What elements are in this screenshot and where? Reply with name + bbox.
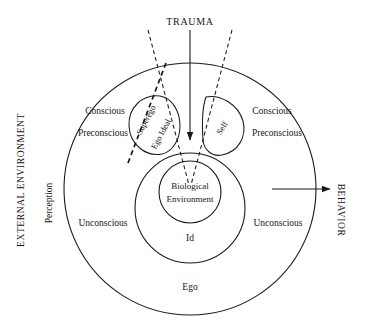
unconscious-right-label: Unconscious [253,219,302,229]
biological-environment-circle-outline [159,161,221,223]
conscious-left-label: Conscious [85,107,125,117]
id-label: Id [186,234,194,244]
diagram-canvas: TRAUMA BEHAVIOR EXTERNAL ENVIRONMENT Per… [0,0,365,335]
biological-label: Biological [171,182,209,191]
preconscious-left-label: Preconscious [78,129,128,139]
ego-label: Ego [182,283,197,293]
environment-label: Environment [167,195,214,204]
trauma-label: TRAUMA [166,17,214,27]
perception-label: Perception [45,183,55,224]
conscious-right-label: Conscious [252,107,292,117]
external-environment-label: EXTERNAL ENVIRONMENT [17,113,27,247]
behavior-label: BEHAVIOR [335,184,345,237]
preconscious-right-label: Preconscious [252,129,302,139]
id-circle-outline [135,153,245,263]
dashed-split-line-right-icon [191,30,232,185]
unconscious-left-label: Unconscious [78,219,127,229]
